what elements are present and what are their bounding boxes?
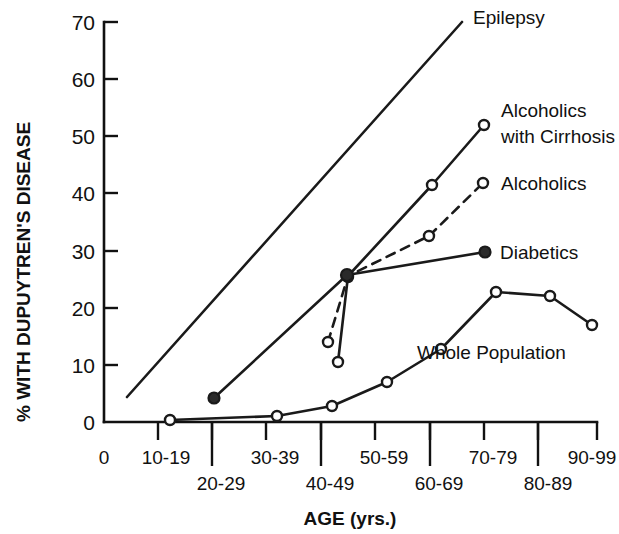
series-alcoholics-with-cirrhosis [333,120,489,367]
x-tick-label-40-49: 40-49 [306,473,355,494]
data-point [323,337,333,347]
y-tick-label-30: 30 [72,240,95,263]
data-point [333,357,343,367]
x-tick-label-90-99: 90-99 [568,447,617,468]
y-tick-label-20: 20 [72,297,95,320]
data-point [272,411,282,421]
data-point [341,269,353,281]
series-label-alcoholics-with-cirrhosis-line1: Alcoholics [501,100,587,121]
x-tick-label-80-89: 80-89 [524,473,573,494]
y-tick-label-40: 40 [72,182,95,205]
x-tick-label-60-69: 60-69 [415,473,464,494]
x-tick-label-70-79: 70-79 [469,447,518,468]
x-tick-label-50-59: 50-59 [360,447,409,468]
series-alcoholics [323,178,488,347]
data-point [545,291,555,301]
x-tick-label-20-29: 20-29 [197,473,246,494]
series-epilepsy-line [127,22,462,397]
series-label-whole-population: Whole Population [417,342,566,363]
y-axis-ticks [104,22,118,365]
series-label-alcoholics: Alcoholics [501,173,587,194]
series-epilepsy [127,22,462,397]
data-point [424,231,434,241]
dupuytren-prevalence-chart: % WITH DUPUYTREN'S DISEASE 70 60 50 40 3… [0,0,619,534]
y-tick-label-50: 50 [72,125,95,148]
y-axis-title: % WITH DUPUYTREN'S DISEASE [13,122,34,422]
x-tick-label-30-39: 30-39 [251,447,300,468]
series-label-epilepsy: Epilepsy [473,7,545,28]
data-point [165,415,175,425]
data-point [480,247,491,258]
x-axis-title: AGE (yrs.) [304,508,397,529]
series-alcoholics-line [328,183,483,342]
data-point [478,178,488,188]
data-point [209,393,220,404]
data-point [491,287,501,297]
series-diabetics [209,247,491,404]
y-tick-label-60: 60 [72,68,95,91]
data-point [587,320,597,330]
data-point [479,120,489,130]
data-point [382,377,392,387]
series-label-diabetics: Diabetics [500,242,578,263]
data-point [427,180,437,190]
x-axis-ticks [158,422,597,440]
x-axis-tick-labels-lower: 20-29 40-49 60-69 80-89 [197,473,573,494]
y-tick-label-10: 10 [72,354,95,377]
x-tick-label-0: 0 [99,447,110,468]
y-tick-label-70: 70 [72,11,95,34]
series-label-alcoholics-with-cirrhosis-line2: with Cirrhosis [500,126,615,147]
data-point [327,401,337,411]
y-axis-tick-labels: 70 60 50 40 30 20 10 0 [72,11,95,434]
x-tick-label-10-19: 10-19 [142,447,191,468]
y-tick-label-0: 0 [83,411,95,434]
